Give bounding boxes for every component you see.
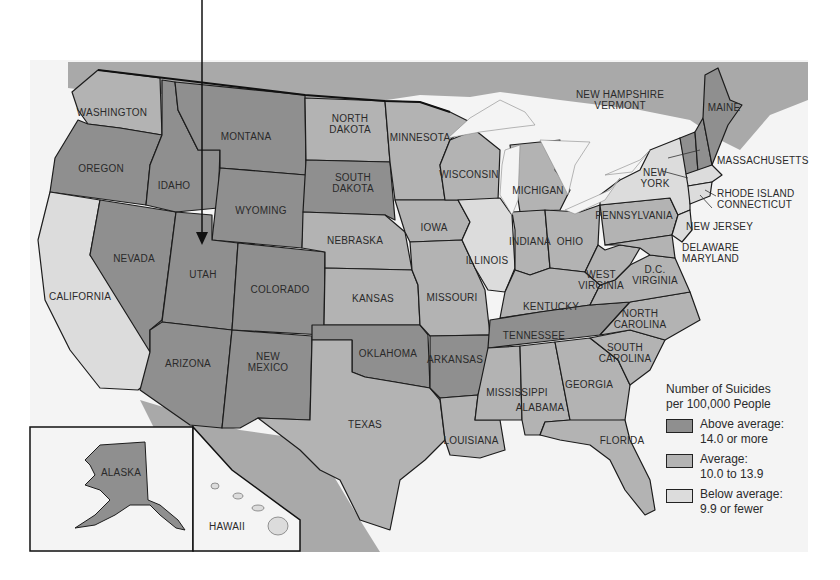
label-new-york: NEWYORK (640, 167, 669, 189)
legend-item-average: Average:10.0 to 13.9 (666, 452, 836, 482)
legend-item-above: Above average:14.0 or more (666, 417, 836, 447)
state-new-mexico (222, 330, 312, 428)
label-arkansas: ARKANSAS (427, 354, 483, 365)
label-wisconsin: WISCONSIN (439, 169, 499, 180)
label-texas: TEXAS (348, 419, 382, 430)
label-north-carolina: NORTHCAROLINA (614, 308, 667, 330)
label-idaho: IDAHO (158, 180, 191, 191)
label-kansas: KANSAS (352, 293, 394, 304)
map-legend: Number of Suicidesper 100,000 People Abo… (666, 382, 836, 517)
label-north-dakota: NORTHDAKOTA (329, 113, 371, 135)
label-maine: MAINE (708, 102, 741, 113)
label-missouri: MISSOURI (426, 292, 477, 303)
label-oregon: OREGON (78, 163, 124, 174)
hawaii-island-big (268, 517, 288, 535)
hawaii-island-maui (252, 505, 264, 511)
label-minnesota: MINNESOTA (390, 132, 451, 143)
label-colorado: COLORADO (251, 284, 310, 295)
label-delaware-maryland: DELAWAREMARYLAND (682, 242, 739, 264)
label-west-virginia: WESTVIRGINIA (578, 269, 624, 291)
label-ohio: OHIO (557, 236, 583, 247)
label-south-carolina: SOUTHCAROLINA (599, 342, 652, 364)
label-illinois: ILLINOIS (466, 255, 509, 266)
hawaii-island-kauai (211, 483, 219, 489)
legend-swatch-below (666, 489, 693, 503)
label-montana: MONTANA (221, 131, 272, 142)
legend-title: Number of Suicidesper 100,000 People (666, 382, 836, 412)
label-georgia: GEORGIA (565, 379, 613, 390)
hawaii-island-oahu (233, 493, 243, 499)
label-alaska: ALASKA (101, 467, 141, 478)
label-nevada: NEVADA (113, 253, 155, 264)
label-tennessee: TENNESSEE (503, 330, 565, 341)
label-new-jersey: NEW JERSEY (686, 221, 753, 232)
legend-swatch-average (666, 454, 693, 468)
label-washington: WASHINGTON (77, 107, 147, 118)
label-nh-vermont: NEW HAMPSHIREVERMONT (576, 89, 664, 111)
label-massachusetts: MASSACHUSETTS (717, 155, 809, 166)
label-kentucky: KENTUCKY (523, 301, 579, 312)
label-florida: FLORIDA (600, 435, 645, 446)
suicide-rate-choropleth-map: WASHINGTON OREGON CALIFORNIA NEVADA IDAH… (0, 0, 840, 580)
label-iowa: IOWA (420, 222, 447, 233)
label-michigan: MICHIGAN (512, 185, 564, 196)
legend-swatch-above (666, 419, 693, 433)
label-utah: UTAH (189, 269, 216, 280)
label-hawaii: HAWAII (209, 521, 245, 532)
label-louisiana: LOUISIANA (443, 435, 498, 446)
label-california: CALIFORNIA (49, 291, 111, 302)
label-alabama: ALABAMA (516, 402, 565, 413)
label-indiana: INDIANA (509, 236, 551, 247)
label-dc-virginia: D.C.VIRGINIA (632, 264, 678, 286)
label-oklahoma: OKLAHOMA (359, 348, 417, 359)
label-new-mexico: NEWMEXICO (248, 351, 289, 373)
label-arizona: ARIZONA (165, 358, 211, 369)
label-south-dakota: SOUTHDAKOTA (332, 172, 374, 194)
legend-item-below: Below average:9.9 or fewer (666, 487, 836, 517)
label-pennsylvania: PENNSYLVANIA (595, 210, 673, 221)
label-wyoming: WYOMING (235, 205, 286, 216)
label-nebraska: NEBRASKA (327, 235, 383, 246)
label-mississippi: MISSISSIPPI (486, 387, 548, 398)
label-ri-connecticut: RHODE ISLANDCONNECTICUT (717, 188, 794, 210)
